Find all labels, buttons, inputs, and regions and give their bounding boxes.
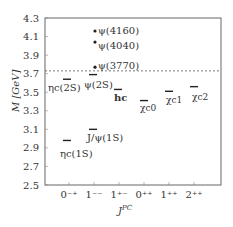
level-dot	[93, 66, 96, 69]
label-chic2: χc2	[192, 92, 208, 102]
label-etac1s: ηc(1S)	[60, 148, 93, 159]
y-tick-label: 2.7	[23, 161, 39, 172]
label-jpsi: J/ψ(1S)	[86, 132, 123, 143]
label-psi2s: ψ(2S)	[84, 79, 113, 90]
x-tick-label: 2⁺⁺	[186, 189, 203, 200]
label-chic1: χc1	[166, 95, 182, 105]
y-tick-label: 2.5	[23, 180, 39, 191]
y-tick-label: 3.9	[23, 50, 39, 61]
level-dot	[93, 29, 96, 32]
label-hc: hc	[114, 92, 127, 103]
x-tick-label: 1⁺⁻	[111, 189, 128, 200]
label-psi3770: ψ(3770)	[98, 60, 139, 71]
x-tick-label: 1⁻⁻	[86, 189, 103, 200]
x-tick-label: 1⁺⁺	[161, 189, 178, 200]
y-tick-label: 3.1	[23, 124, 39, 135]
y-tick-label: 2.9	[23, 142, 39, 153]
y-tick-label: 3.7	[23, 68, 39, 79]
y-tick-label: 3.5	[23, 87, 39, 98]
y-axis-ticks: 2.52.72.93.13.33.53.73.94.14.3	[23, 13, 48, 191]
label-etac2s: ηc(2S)	[48, 82, 81, 93]
x-axis-label: JPC	[116, 204, 133, 216]
charmonium-spectrum-chart: 2.52.72.93.13.33.53.73.94.14.3 0⁻⁺1⁻⁻1⁺⁻…	[0, 0, 233, 227]
y-tick-label: 3.3	[23, 105, 39, 116]
label-chic0: χc0	[140, 103, 156, 113]
x-tick-label: 0⁻⁺	[61, 189, 78, 200]
y-tick-label: 4.3	[23, 13, 39, 24]
x-tick-label: 0⁺⁺	[136, 189, 153, 200]
label-psi4160: ψ(4160)	[98, 25, 139, 36]
level-dot	[93, 41, 96, 44]
label-psi4040: ψ(4040)	[98, 40, 139, 51]
y-axis-label: M [GeV]	[10, 70, 21, 113]
y-tick-label: 4.1	[23, 31, 39, 42]
x-axis-label-sup: PC	[121, 204, 133, 212]
